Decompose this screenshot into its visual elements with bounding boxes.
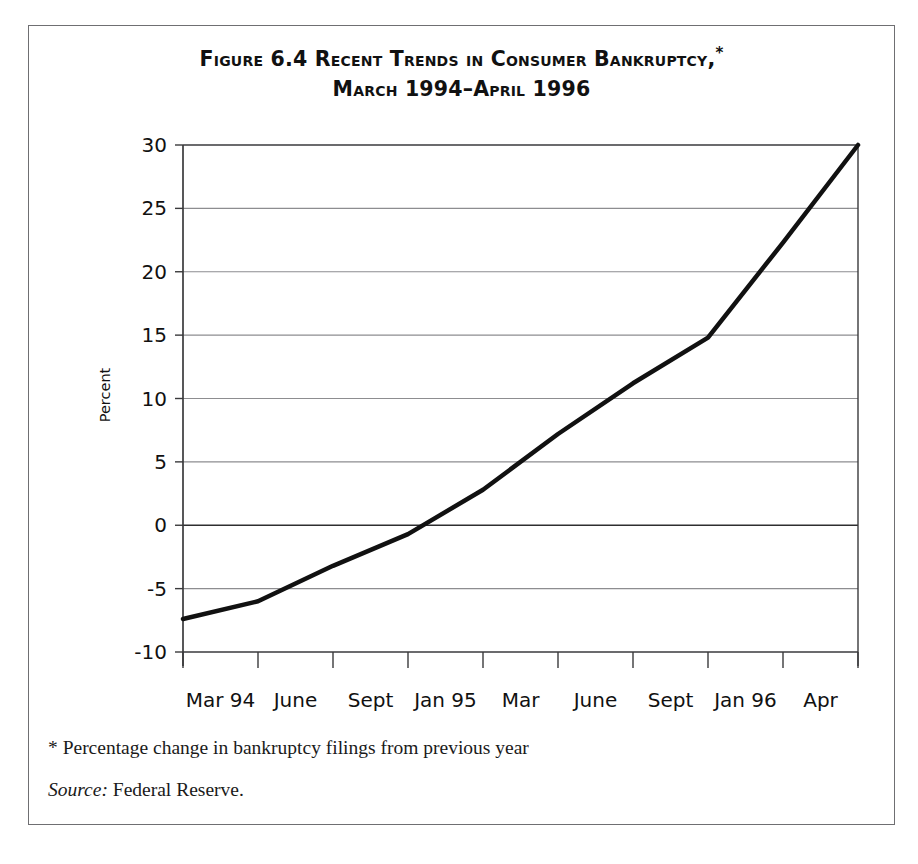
figure-notes: * Percentage change in bankruptcy filing… [48,735,848,803]
figure-footnote: * Percentage change in bankruptcy filing… [48,735,848,761]
figure-root: Figure 6.4 Recent Trends in Consumer Ban… [0,0,918,864]
y-axis-tick-label: 25 [107,196,167,220]
x-axis-tick-label: Sept [348,688,394,712]
y-axis-tick-label: 0 [107,513,167,537]
source-label: Source: [48,779,108,800]
x-axis-tick-label: Jan 95 [414,688,477,712]
y-axis-tick-label: 20 [107,260,167,284]
figure-source: Source: Federal Reserve. [48,777,848,803]
y-axis-tick-label: 5 [107,450,167,474]
x-axis-tick-label: Apr [803,688,838,712]
x-axis-tick-label: Sept [648,688,694,712]
y-axis-tick-label: 30 [107,133,167,157]
x-axis-tick-label: June [274,688,318,712]
x-axis-tick-label: Mar 94 [186,688,256,712]
x-axis-tick-label: Jan 96 [714,688,777,712]
data-series-line [183,145,858,619]
x-axis-tick-label: June [574,688,618,712]
source-value: Federal Reserve. [108,779,244,800]
x-axis-tick-label: Mar [502,688,540,712]
y-axis-tick-label: -10 [107,640,167,664]
y-axis-tick-label: 15 [107,323,167,347]
y-axis-tick-label: 10 [107,387,167,411]
y-axis-tick-label: -5 [107,577,167,601]
